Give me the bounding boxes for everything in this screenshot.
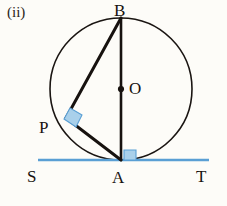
point-label-t: T (196, 168, 207, 185)
part-label: (ii) (7, 5, 25, 20)
right-angle-at-p-marker (64, 108, 82, 127)
point-label-s: S (27, 168, 37, 185)
point-label-o: O (129, 80, 141, 97)
right-angle-at-a-marker (124, 150, 136, 160)
figure-canvas: (ii) B O P S A T (0, 0, 227, 206)
point-label-a: A (112, 169, 124, 186)
point-label-b: B (114, 2, 126, 19)
center-point-dot (118, 86, 124, 92)
segment-bp (66, 18, 121, 118)
point-label-p: P (39, 119, 49, 136)
